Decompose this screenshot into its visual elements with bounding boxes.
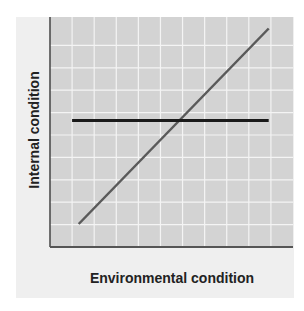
plot <box>0 0 304 311</box>
x-axis-label: Environmental condition <box>90 270 254 286</box>
plot-area <box>50 17 293 247</box>
y-axis-label: Internal condition <box>26 71 42 188</box>
